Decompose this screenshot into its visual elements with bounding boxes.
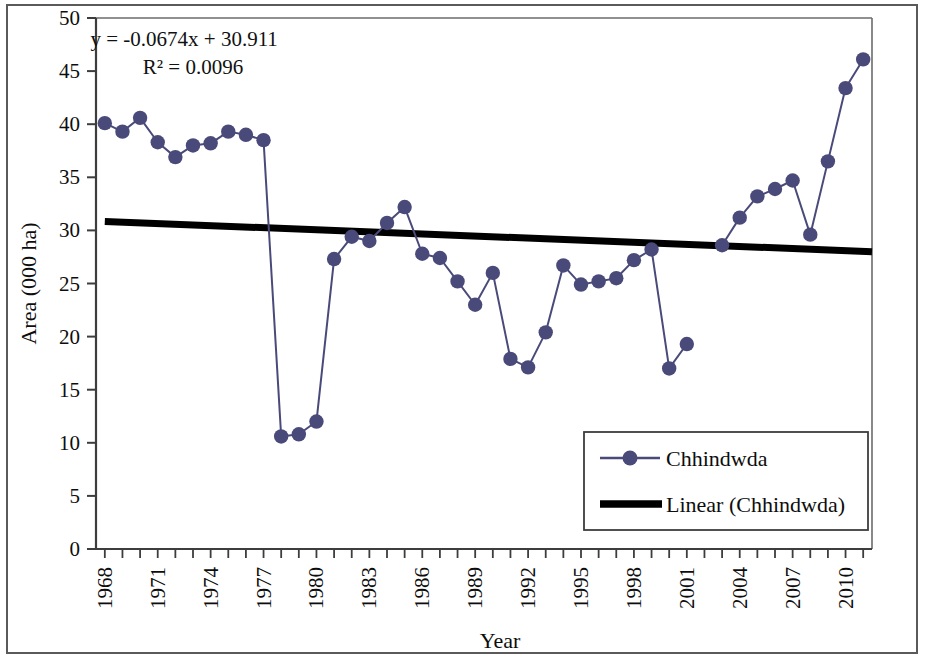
data-point [292,427,306,441]
y-tick-label: 50 [59,6,80,30]
x-tick-label: 1968 [93,567,117,609]
data-point [327,252,341,266]
data-point [521,360,535,374]
data-point [715,238,729,252]
data-point [239,128,253,142]
data-point [309,414,323,428]
data-point [397,200,411,214]
data-point [203,136,217,150]
y-axis-title: Area (000 ha) [16,222,41,344]
data-point [450,274,464,288]
y-tick-label: 10 [59,431,80,455]
y-tick-label: 15 [59,378,80,402]
data-point [856,52,870,66]
x-tick-label: 2001 [675,567,699,609]
data-point [98,116,112,130]
legend-label-linear-chhindwda: Linear (Chhindwda) [666,492,845,517]
data-point [750,189,764,203]
x-tick-label: 1998 [622,567,646,609]
x-tick-label: 1974 [199,567,223,610]
x-tick-label: 1980 [304,567,328,609]
x-axis-title: Year [480,628,521,653]
chart-figure: 50454035302520151050 1968197119741977198… [0,0,930,661]
data-point [186,138,200,152]
data-point [221,124,235,138]
data-point [486,266,500,280]
data-point [768,182,782,196]
data-point [362,234,376,248]
data-point [838,81,852,95]
data-point [574,277,588,291]
data-point [151,135,165,149]
x-tick-label: 1989 [463,567,487,609]
x-tick-label: 2010 [834,567,858,609]
y-tick-label: 40 [59,112,80,136]
y-tick-label: 0 [70,537,81,561]
data-point [468,298,482,312]
x-tick-label: 1995 [569,567,593,609]
data-point [556,258,570,272]
data-point [609,271,623,285]
x-tick-label: 1971 [146,567,170,609]
x-axis: 1968197119741977198019831986198919921995… [93,549,872,609]
x-tick-label: 1977 [252,567,276,609]
data-point [345,230,359,244]
y-tick-label: 25 [59,272,80,296]
data-point [644,242,658,256]
data-point [785,173,799,187]
y-axis: 50454035302520151050 [59,6,96,561]
data-point [415,247,429,261]
data-point [733,210,747,224]
data-point [433,251,447,265]
x-tick-label: 1983 [357,567,381,609]
data-point [627,253,641,267]
x-tick-label: 2004 [728,567,752,610]
data-point [115,124,129,138]
y-tick-label: 30 [59,218,80,242]
data-point [662,361,676,375]
data-point [539,325,553,339]
y-tick-label: 5 [70,484,81,508]
legend-marker-chhindwda [623,451,638,466]
x-tick-label: 2007 [781,567,805,609]
line-chart: 50454035302520151050 1968197119741977198… [0,0,930,661]
equation-label: y = -0.0674x + 30.911 [90,27,277,51]
data-point [591,274,605,288]
x-tick-label: 1992 [516,567,540,609]
data-point [680,337,694,351]
y-tick-label: 20 [59,325,80,349]
data-point [503,352,517,366]
data-point [168,150,182,164]
data-point [803,227,817,241]
data-point [821,154,835,168]
legend-label-chhindwda: Chhindwda [666,446,768,471]
x-tick-label: 1986 [410,567,434,609]
data-point [256,133,270,147]
y-tick-label: 35 [59,165,80,189]
data-point [133,111,147,125]
y-tick-label: 45 [59,59,80,83]
data-point [274,429,288,443]
r-squared-label: R² = 0.0096 [143,55,243,79]
data-point [380,216,394,230]
legend: Chhindwda Linear (Chhindwda) [584,432,868,530]
